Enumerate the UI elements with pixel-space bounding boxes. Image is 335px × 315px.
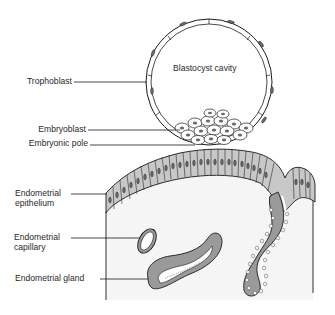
label-embryonic-pole: Embryonic pole [14, 138, 88, 148]
implantation-diagram [0, 0, 335, 315]
label-line: capillary [14, 242, 60, 252]
label-endometrial-capillary: Endometrial capillary [14, 232, 60, 252]
label-endometrial-gland: Endometrial gland [15, 273, 84, 283]
label-line: epithelium [15, 198, 61, 208]
label-line: Endometrial [15, 188, 61, 198]
blastocyst [146, 19, 273, 145]
label-embryoblast: Embryoblast [26, 124, 86, 134]
label-endometrial-epithelium: Endometrial epithelium [15, 188, 61, 208]
label-line: Endometrial [14, 232, 60, 242]
blastocyst-cavity-label: Blastocyst cavity [173, 63, 237, 73]
label-trophoblast: Trophoblast [18, 76, 72, 86]
